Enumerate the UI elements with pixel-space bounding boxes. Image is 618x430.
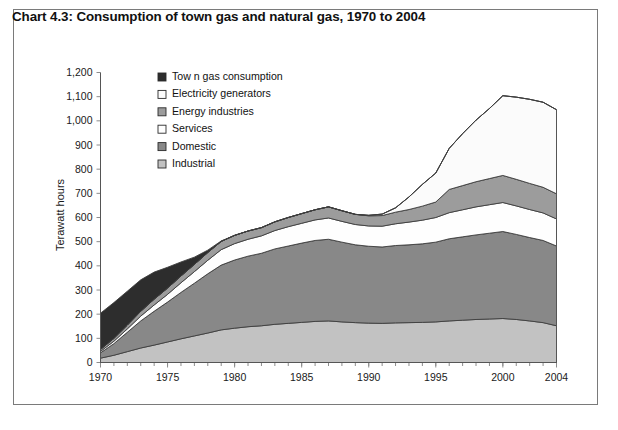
x-tick-label: 1995 — [424, 371, 448, 383]
legend-swatch — [158, 125, 166, 133]
x-tick-label: 2000 — [491, 371, 515, 383]
y-tick-label: 500 — [75, 235, 93, 247]
y-tick-label: 1,200 — [66, 66, 92, 78]
x-tick-label: 1985 — [290, 371, 314, 383]
x-axis-ticks: 19701975198019851990199520002004 — [89, 363, 569, 383]
legend-label: Energy industries — [172, 105, 254, 117]
legend-label: Services — [172, 122, 213, 134]
x-tick-label: 1970 — [89, 371, 113, 383]
y-tick-label: 600 — [75, 211, 93, 223]
stacked-area-chart: 01002003004005006007008009001,0001,1001,… — [0, 0, 618, 430]
y-tick-label: 100 — [75, 332, 93, 344]
legend-swatch — [158, 160, 166, 168]
legend-label: Tow n gas consumption — [172, 70, 283, 82]
legend-label: Industrial — [172, 157, 215, 169]
y-tick-label: 400 — [75, 259, 93, 271]
chart-legend: Tow n gas consumptionElectricity generat… — [158, 70, 283, 169]
x-tick-label: 1980 — [223, 371, 247, 383]
y-tick-label: 200 — [75, 308, 93, 320]
y-tick-label: 900 — [75, 139, 93, 151]
y-axis-title: Terawatt hours — [54, 178, 66, 251]
y-tick-label: 1,000 — [66, 114, 92, 126]
legend-label: Domestic — [172, 140, 217, 152]
y-tick-label: 800 — [75, 163, 93, 175]
y-tick-label: 1,100 — [66, 90, 92, 102]
legend-swatch — [158, 108, 166, 116]
legend-swatch — [158, 90, 166, 98]
chart-figure: Chart 4.3: Consumption of town gas and n… — [0, 0, 618, 430]
area-series-group — [101, 96, 557, 363]
x-tick-label: 2004 — [545, 371, 569, 383]
y-tick-label: 300 — [75, 284, 93, 296]
y-tick-label: 700 — [75, 187, 93, 199]
legend-label: Electricity generators — [172, 87, 271, 99]
x-tick-label: 1990 — [357, 371, 381, 383]
legend-swatch — [158, 73, 166, 81]
x-tick-label: 1975 — [156, 371, 180, 383]
y-axis-ticks: 01002003004005006007008009001,0001,1001,… — [66, 66, 100, 368]
plot-container: 01002003004005006007008009001,0001,1001,… — [0, 0, 618, 430]
legend-swatch — [158, 143, 166, 151]
y-tick-label: 0 — [87, 356, 93, 368]
